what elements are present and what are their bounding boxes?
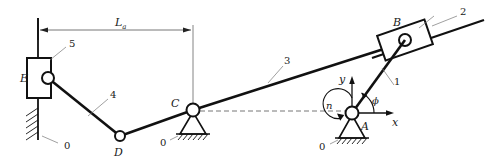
ground-leader-c [170, 136, 178, 140]
ground-hatch-c [178, 134, 208, 140]
angle-phi-label: ϕ [372, 95, 379, 106]
ground-hatch-e [26, 108, 38, 140]
joint-label-b: B [392, 16, 401, 29]
joint-pin-d [115, 131, 125, 141]
link4-leader [88, 99, 108, 116]
mechanism-diagram: La 0 5 E 4 3 [0, 0, 485, 163]
link-4-segment [48, 78, 120, 136]
y-axis-label: y [338, 73, 346, 86]
joint-pin-c [187, 104, 200, 117]
link-label-5: 5 [69, 38, 75, 49]
x-axis-arrow [386, 110, 394, 116]
dimension-arrow-left [40, 27, 48, 32]
joint-pin-a [346, 107, 359, 120]
link1-leader [382, 68, 394, 85]
mechanism-svg: La 0 5 E 4 3 [0, 0, 485, 163]
ground-leader-e [42, 136, 58, 143]
joint-label-a: A [360, 120, 369, 133]
link-label-4: 4 [110, 89, 116, 100]
link-label-2: 2 [460, 6, 466, 17]
link5-leader [50, 47, 66, 60]
ground-label-c: 0 [160, 137, 166, 148]
joint-label-e: E [19, 72, 28, 85]
ground-label-a: 0 [319, 141, 325, 152]
dimension-arrow-right [183, 27, 191, 32]
ground-leader-a [330, 140, 338, 144]
joint-pin-e [42, 72, 54, 84]
rotation-label-n: n [326, 100, 332, 111]
joint-label-d: D [113, 146, 123, 159]
link3-leader [268, 66, 283, 83]
link2-leader [432, 16, 457, 26]
x-axis-label: x [392, 116, 399, 129]
dimension-label-la: La [114, 16, 127, 31]
y-axis-arrow [349, 76, 355, 84]
link-label-3: 3 [284, 55, 290, 66]
ground-hatch-a [337, 138, 367, 144]
rotation-arrowhead-n [337, 114, 344, 121]
link-label-1: 1 [394, 76, 400, 87]
joint-label-c: C [171, 97, 180, 110]
ground-label-e: 0 [64, 140, 70, 151]
